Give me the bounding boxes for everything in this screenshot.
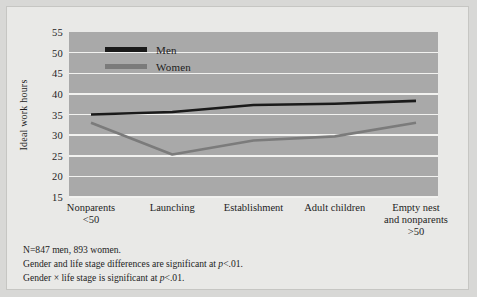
legend-label-women: Women: [156, 61, 191, 73]
legend-label-men: Men: [156, 44, 177, 56]
footnote-sample-size: N=847 men, 893 women.: [23, 243, 243, 257]
plot-wrapper: 555045403530252015 Ideal work hours Nonp…: [69, 32, 438, 197]
x-axis-tick-label: Empty nestand nonparents>50: [368, 202, 464, 238]
footnotes: N=847 men, 893 women. Gender and life st…: [23, 243, 243, 285]
legend-item-women: Women: [105, 58, 191, 75]
footnote-main-effects: Gender and life stage differences are si…: [23, 257, 243, 271]
y-axis-tick-label: 45: [52, 68, 63, 79]
y-axis-label: Ideal work hours: [18, 79, 29, 150]
y-axis-tick-label: 50: [52, 47, 63, 58]
y-axis-tick-label: 15: [52, 192, 63, 203]
y-axis-tick-label: 55: [52, 27, 63, 38]
y-axis-tick-label: 35: [52, 109, 63, 120]
series-line-men: [91, 101, 416, 115]
series-line-women: [91, 123, 416, 155]
y-axis-tick-label: 30: [52, 130, 63, 141]
x-axis-tick-label-line: >50: [368, 226, 464, 238]
y-axis-tick-label: 20: [52, 171, 63, 182]
y-axis-tick-label: 40: [52, 88, 63, 99]
legend-swatch-men: [105, 47, 147, 52]
legend-swatch-women: [105, 64, 147, 69]
footnote-interaction-text-a: Gender × life stage is significant at: [23, 272, 160, 283]
figure-panel: 555045403530252015 Ideal work hours Nonp…: [6, 6, 469, 290]
y-axis-tick-label: 25: [52, 150, 63, 161]
footnote-main-effects-text-a: Gender and life stage differences are si…: [23, 258, 218, 269]
footnote-main-effects-text-b: <.01.: [223, 258, 243, 269]
footnote-interaction: Gender × life stage is significant at p<…: [23, 271, 243, 285]
legend-item-men: Men: [105, 41, 191, 58]
x-axis-tick-label-line: Empty nest: [368, 202, 464, 214]
x-axis-tick-label-line: <50: [43, 214, 139, 226]
footnote-interaction-text-b: <.01.: [165, 272, 185, 283]
chart-legend: Men Women: [105, 41, 191, 75]
x-axis-tick-label-line: and nonparents: [368, 214, 464, 226]
